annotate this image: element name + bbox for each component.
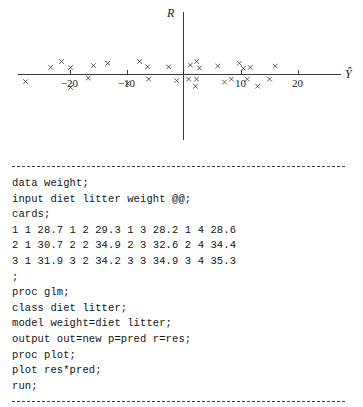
x-axis-label: Ŷ [345,67,353,81]
data-point [145,65,150,70]
data-point [215,64,220,69]
sas-code-block: data weight;input diet litter weight @@;… [0,158,363,402]
code-line: input diet litter weight @@; [12,192,363,208]
code-line-list: data weight;input diet litter weight @@;… [12,176,363,394]
x-axis-tick-label: 10 [235,77,247,89]
data-point [193,84,198,89]
data-point [48,65,53,70]
data-point [188,63,193,68]
data-point [222,80,227,85]
code-line: proc glm; [12,285,363,301]
code-line: model weight=diet litter; [12,316,363,332]
data-point [194,77,199,82]
data-point [23,79,28,84]
x-axis-tick-label: 20 [292,77,304,89]
code-line: ; [12,270,363,286]
code-line: cards; [12,207,363,223]
code-line: 2 1 30.7 2 2 34.9 2 3 32.6 2 4 34.4 [12,238,363,254]
data-point [137,59,142,64]
code-line: class diet litter; [12,301,363,317]
code-line: data weight; [12,176,363,192]
data-point [197,66,202,71]
data-point [174,78,179,83]
data-point [237,61,242,66]
code-line: 1 1 28.7 1 2 29.3 1 3 28.2 1 4 28.6 [12,223,363,239]
data-point [186,77,191,82]
code-line: 3 1 31.9 3 2 34.2 3 3 34.9 3 4 35.3 [12,254,363,270]
code-line: output out=new p=pred r=res; [12,332,363,348]
data-point [91,63,96,68]
x-axis-tick-label: −10 [118,77,136,89]
x-axis-tick-group: −20−101020 [61,70,304,89]
data-point [59,59,64,64]
data-point [68,65,73,70]
residual-scatter-plot: −20−101020 R Ŷ [0,0,363,150]
divider-bottom [12,401,345,402]
data-point [105,61,110,66]
data-point [255,84,260,89]
code-line: proc plot; [12,348,363,364]
data-point [146,77,151,82]
x-axis-tick-label: −20 [61,77,79,89]
data-point [86,76,91,81]
code-line: run; [12,379,363,395]
plot-canvas: −20−101020 R Ŷ [0,0,363,150]
divider-top [12,166,345,167]
data-point [241,66,246,71]
code-line: plot res*pred; [12,363,363,379]
data-point [229,77,234,82]
data-point [166,65,171,70]
data-point [267,77,272,82]
data-point [248,65,253,70]
y-axis-label: R [166,6,175,20]
data-point [194,59,199,64]
data-point [273,64,278,69]
